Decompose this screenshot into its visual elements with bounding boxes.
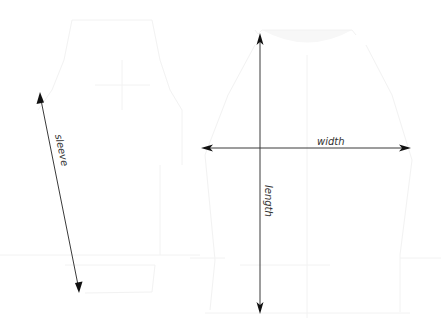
- sleeve-measurement: sleeve: [37, 92, 83, 293]
- measurement-diagram: sleeve width length: [0, 0, 441, 334]
- width-label: width: [317, 136, 345, 147]
- width-measurement: width: [201, 136, 411, 152]
- arrow-down-icon: [75, 282, 83, 294]
- sleeve-arrow-line: [41, 100, 78, 285]
- arrow-up-icon: [37, 92, 45, 104]
- garment-outline-left: [0, 20, 200, 293]
- sleeve-label: sleeve: [53, 133, 70, 167]
- length-label: length: [263, 185, 274, 217]
- garment-outline-right: [190, 30, 441, 318]
- length-measurement: length: [257, 33, 275, 314]
